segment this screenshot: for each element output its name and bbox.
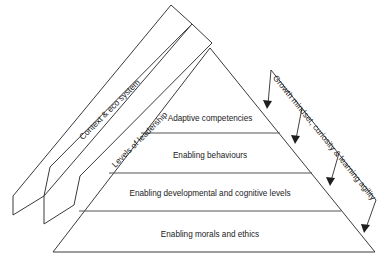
bracket-arrow-head-4: [361, 224, 370, 233]
tier-label-1: Adaptive competencies: [168, 114, 253, 123]
tier-label-2: Enabling behaviours: [173, 151, 247, 160]
bracket-arrow-head-3: [326, 177, 335, 186]
tier-label-4: Enabling morals and ethics: [161, 230, 259, 239]
tier-label-3: Enabling developmental and cognitive lev…: [129, 189, 290, 198]
bracket-arrow-line-1: [268, 70, 271, 104]
bracket-arrow-line-4: [366, 200, 376, 228]
diagram-canvas: Adaptive competencies Enabling behaviour…: [0, 0, 392, 267]
pyramid-diagram: Adaptive competencies Enabling behaviour…: [0, 0, 392, 267]
bracket-arrow-head-1: [263, 100, 272, 109]
bracket-arrow-head-2: [291, 135, 300, 144]
